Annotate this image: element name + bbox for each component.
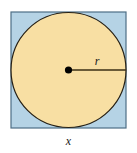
square-side-label: x [65, 134, 72, 148]
geometry-figure: r x [0, 0, 137, 153]
radius-label: r [95, 54, 100, 68]
circle-center-dot [65, 66, 72, 73]
figure-canvas: r x [0, 0, 137, 153]
